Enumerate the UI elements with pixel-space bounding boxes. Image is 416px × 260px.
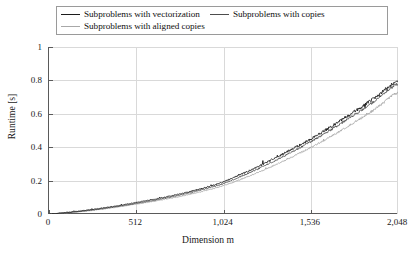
runtime-chart-figure: Subproblems with vectorization Subproble… bbox=[0, 0, 416, 260]
x-tick-label-group: 05121,0241,5362,048 bbox=[0, 0, 416, 260]
x-axis-title: Dimension m bbox=[0, 234, 416, 245]
x-tick-label: 2,048 bbox=[387, 217, 407, 227]
x-tick-label: 512 bbox=[129, 217, 143, 227]
x-tick-label: 1,536 bbox=[300, 217, 320, 227]
x-tick-label: 0 bbox=[46, 217, 51, 227]
x-tick-label: 1,024 bbox=[212, 217, 232, 227]
